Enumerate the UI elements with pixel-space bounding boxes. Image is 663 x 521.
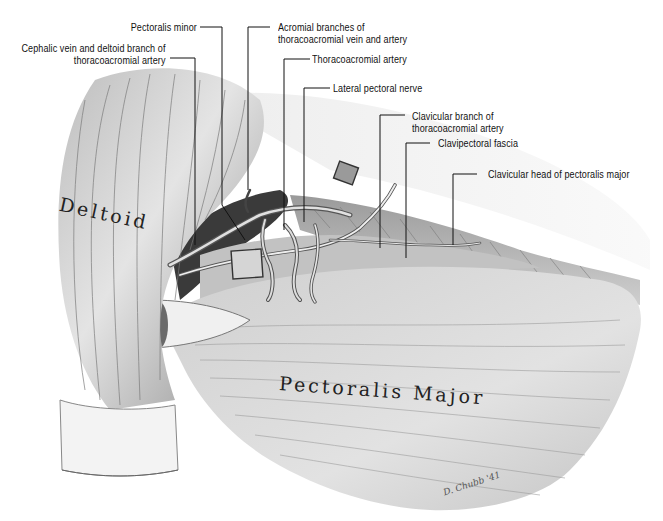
label-text-line1: Clavicular branch of: [412, 110, 504, 122]
label-text-line1: Acromial branches of: [278, 21, 407, 33]
label-clavipectoral-fascia: Clavipectoral fascia: [438, 137, 518, 149]
label-pectoralis-minor: Pectoralis minor: [131, 21, 197, 33]
label-text: Lateral pectoral nerve: [333, 82, 422, 94]
label-clavicular-branch: Clavicular branch of thoracoacromial art…: [412, 110, 504, 134]
arm-wrap: [60, 400, 178, 476]
retractor-block-lower: [231, 249, 263, 279]
label-text-line2: thoracoacromial artery: [22, 54, 166, 66]
label-text-line2: thoracoacromial artery: [412, 122, 504, 134]
label-thoracoacromial-artery: Thoracoacromial artery: [312, 53, 407, 65]
illustration: [0, 0, 663, 521]
label-text-line2: thoracoacromial vein and artery: [278, 33, 407, 45]
label-clavicular-head: Clavicular head of pectoralis major: [488, 168, 630, 180]
label-text: Clavipectoral fascia: [438, 137, 518, 149]
anatomy-figure: Pectoralis minor Cephalic vein and delto…: [0, 0, 663, 521]
label-lateral-pectoral-nerve: Lateral pectoral nerve: [333, 82, 422, 94]
label-cephalic-vein: Cephalic vein and deltoid branch of thor…: [22, 42, 166, 66]
label-text: Thoracoacromial artery: [312, 53, 407, 65]
label-acromial-branches: Acromial branches of thoracoacromial vei…: [278, 21, 407, 45]
label-text: Clavicular head of pectoralis major: [488, 168, 630, 180]
label-text-line1: Cephalic vein and deltoid branch of: [22, 42, 166, 54]
label-text: Pectoralis minor: [131, 21, 197, 33]
